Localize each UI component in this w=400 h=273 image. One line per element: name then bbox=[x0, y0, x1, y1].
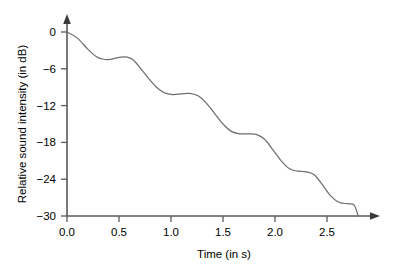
chart-canvas: 0 −6 −12 −18 −24 −30 0.0 0.5 1.0 1.5 2.0… bbox=[0, 0, 400, 273]
x-tick-label: 0.5 bbox=[111, 226, 127, 238]
y-tick-labels: 0 −6 −12 −18 −24 −30 bbox=[36, 26, 56, 222]
x-tick-marks bbox=[67, 216, 327, 222]
figure-container: 0 −6 −12 −18 −24 −30 0.0 0.5 1.0 1.5 2.0… bbox=[0, 0, 400, 273]
y-tick-label: 0 bbox=[50, 26, 56, 38]
y-tick-label: −12 bbox=[36, 100, 56, 112]
y-tick-label: −6 bbox=[43, 63, 56, 75]
x-tick-labels: 0.0 0.5 1.0 1.5 2.0 2.5 bbox=[59, 226, 335, 238]
x-tick-label: 0.0 bbox=[59, 226, 75, 238]
up-arrow-icon bbox=[63, 14, 71, 24]
x-tick-label: 1.5 bbox=[215, 226, 231, 238]
x-tick-label: 2.5 bbox=[319, 226, 335, 238]
y-axis-title: Relative sound intensity (in dB) bbox=[16, 45, 28, 204]
y-tick-label: −30 bbox=[36, 210, 56, 222]
y-tick-label: −24 bbox=[36, 173, 56, 185]
x-axis-title: Time (in s) bbox=[197, 248, 251, 260]
data-series-line bbox=[67, 32, 358, 216]
right-arrow-icon bbox=[370, 212, 380, 220]
x-tick-label: 2.0 bbox=[267, 226, 283, 238]
x-tick-label: 1.0 bbox=[163, 226, 179, 238]
y-tick-label: −18 bbox=[36, 136, 56, 148]
y-tick-marks bbox=[61, 32, 67, 216]
